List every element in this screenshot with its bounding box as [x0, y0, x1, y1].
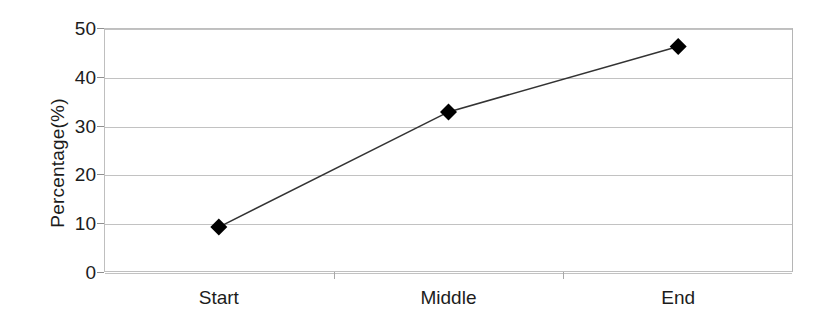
x-axis-tick-labels: StartMiddleEnd — [0, 288, 832, 318]
gridline — [105, 78, 792, 79]
gridline — [105, 224, 792, 225]
x-axis-tick-label: Middle — [421, 288, 477, 307]
y-axis-tick-mark — [97, 77, 104, 78]
y-axis-tick-mark — [97, 223, 104, 224]
y-axis-tick-mark — [97, 174, 104, 175]
y-axis-tick-label: 30 — [56, 116, 96, 135]
y-axis-tick-mark — [97, 28, 104, 29]
gridline — [105, 29, 792, 30]
gridline — [105, 127, 792, 128]
y-axis-tick-label: 50 — [56, 19, 96, 38]
x-axis-tick-mark — [563, 272, 564, 279]
y-axis-tick-mark — [97, 126, 104, 127]
line-chart: Percentage(%) 01020304050 StartMiddleEnd — [0, 0, 832, 332]
y-axis-tick-label: 40 — [56, 67, 96, 86]
x-axis-tick-label: Start — [199, 288, 239, 307]
y-axis-tick-label: 0 — [56, 263, 96, 282]
x-axis-tick-mark — [334, 272, 335, 279]
y-axis-tick-label: 10 — [56, 214, 96, 233]
x-axis-tick-label: End — [661, 288, 695, 307]
y-axis-tick-mark — [97, 272, 104, 273]
y-axis-tick-label: 20 — [56, 165, 96, 184]
gridline — [105, 273, 792, 274]
plot-area — [104, 28, 793, 272]
y-axis-tick-labels: 01020304050 — [52, 0, 96, 332]
gridline — [105, 175, 792, 176]
